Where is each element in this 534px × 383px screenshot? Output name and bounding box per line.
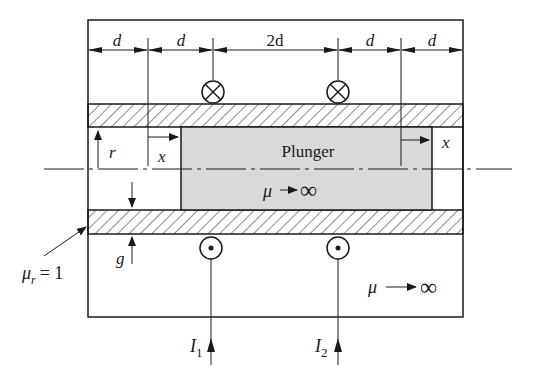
plunger-label: Plunger <box>282 142 335 161</box>
current-label-1: I1 <box>189 336 203 360</box>
solenoid-diagram: d d 2d d d I1 I2 Plunger μ ∞ μ ∞ r x x <box>0 0 534 383</box>
current-into-page-icon <box>327 81 349 103</box>
current-out-of-page-icon <box>327 237 349 259</box>
core-infinity: ∞ <box>420 274 437 300</box>
gap-label: g <box>116 249 125 268</box>
core-mu: μ <box>367 277 377 297</box>
bottom-sleeve <box>88 210 463 234</box>
dim-label-4: d <box>366 31 375 50</box>
arrow-up-icon <box>207 338 215 352</box>
dim-label-1: d <box>113 31 122 50</box>
top-sleeve <box>88 104 463 127</box>
current-label-2: I2 <box>314 336 328 360</box>
current-into-page-icon <box>202 81 224 103</box>
dim-label-3: 2d <box>267 31 285 50</box>
current-out-of-page-icon <box>200 237 222 259</box>
x-label-left: x <box>157 147 166 166</box>
dim-label-2: d <box>177 31 186 50</box>
plunger-infinity: ∞ <box>300 177 317 203</box>
arrow-up-icon <box>334 338 342 352</box>
plunger-mu: μ <box>262 181 272 201</box>
dim-label-5: d <box>428 31 437 50</box>
mu-r-label: μr= 1 <box>21 263 63 287</box>
x-label-right: x <box>441 133 450 152</box>
radius-label: r <box>109 143 116 162</box>
